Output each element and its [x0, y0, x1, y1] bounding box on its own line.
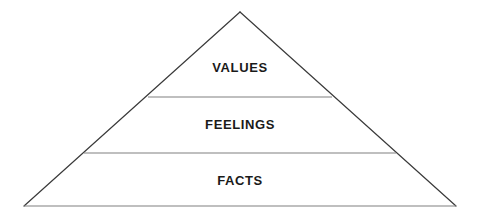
pyramid-tier-label-facts: FACTS	[0, 174, 480, 187]
pyramid-tier-label-feelings: FEELINGS	[0, 118, 480, 131]
pyramid-tier-label-values: VALUES	[0, 61, 480, 74]
pyramid-diagram: VALUES FEELINGS FACTS	[0, 0, 480, 217]
